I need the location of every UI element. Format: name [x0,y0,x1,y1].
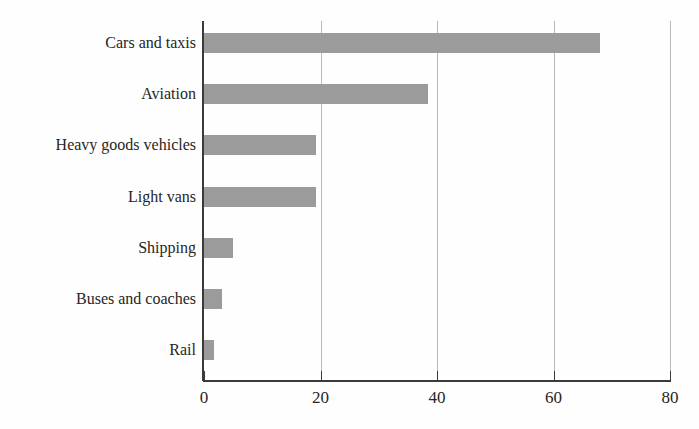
x-tick-label-40: 40 [407,388,467,408]
x-tick-80 [670,371,671,380]
bar [204,135,316,155]
bar-row [204,84,670,104]
gridline-80 [670,21,671,380]
bar-chart-figure: 020406080 Cars and taxisAviationHeavy go… [0,0,699,429]
bar-row [204,238,670,258]
bar [204,238,233,258]
bar [204,340,214,360]
category-label: Heavy goods vehicles [0,135,196,155]
category-label: Cars and taxis [0,33,196,53]
bar-row [204,289,670,309]
category-label: Rail [0,340,196,360]
bar [204,33,600,53]
category-label: Aviation [0,84,196,104]
bar [204,187,316,207]
bar-row [204,135,670,155]
category-label: Light vans [0,187,196,207]
category-label: Buses and coaches [0,289,196,309]
x-tick-40 [437,371,438,380]
y-axis-line [202,21,204,381]
x-tick-label-80: 80 [640,388,699,408]
x-tick-label-60: 60 [524,388,584,408]
x-tick-0 [204,371,205,380]
bar-row [204,340,670,360]
x-axis-line [203,380,671,382]
bar-row [204,33,670,53]
bar-row [204,187,670,207]
x-tick-20 [321,371,322,380]
category-label: Shipping [0,238,196,258]
x-tick-label-0: 0 [174,388,234,408]
x-tick-60 [554,371,555,380]
x-tick-label-20: 20 [291,388,351,408]
bar [204,84,428,104]
bar [204,289,222,309]
plot-area [204,21,670,380]
